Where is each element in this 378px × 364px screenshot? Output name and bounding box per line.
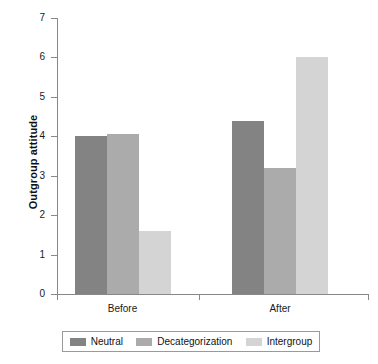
legend-swatch <box>136 338 152 346</box>
legend-label: Decategorization <box>157 337 232 347</box>
bar <box>296 57 328 294</box>
legend-swatch <box>70 338 86 346</box>
legend-item: Decategorization <box>136 337 232 347</box>
x-axis-tick <box>368 294 369 300</box>
x-axis-tick <box>57 294 58 300</box>
bar-chart: 01234567 BeforeAfter Outgroup attitude N… <box>0 0 378 364</box>
bar <box>75 136 107 294</box>
plot-area: 01234567 BeforeAfter Outgroup attitude <box>0 0 378 310</box>
x-axis-tick <box>199 294 200 300</box>
legend-item: Neutral <box>70 337 123 347</box>
legend-item: Intergroup <box>246 337 313 347</box>
bar <box>264 168 296 294</box>
legend-label: Intergroup <box>267 337 313 347</box>
x-axis-line <box>57 294 368 295</box>
legend-label: Neutral <box>91 337 123 347</box>
legend: NeutralDecategorizationIntergroup <box>62 331 320 352</box>
legend-swatch <box>246 338 262 346</box>
bar <box>232 121 264 294</box>
x-axis-tick-label: After <box>230 303 330 314</box>
bars-layer <box>0 18 378 294</box>
x-axis-tick-label: Before <box>73 303 173 314</box>
bar <box>139 231 171 294</box>
bar <box>107 134 139 294</box>
